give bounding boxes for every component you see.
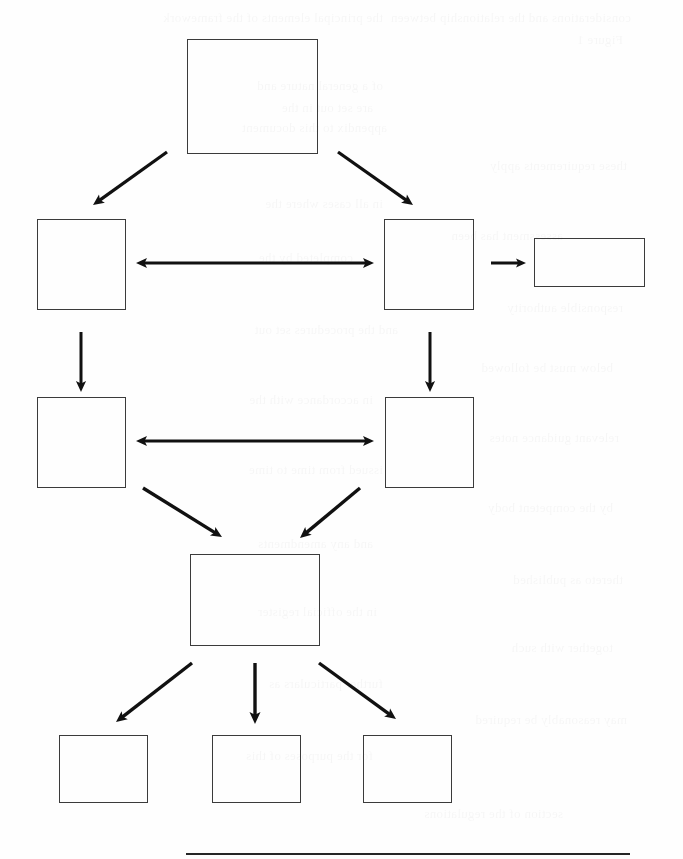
bleed-through-line: completed by the bbox=[259, 250, 353, 266]
bottom-horizontal-rule bbox=[186, 853, 630, 855]
arrow-lower-bidirectional bbox=[136, 436, 374, 446]
arrow-root-to-left-upper bbox=[93, 152, 167, 205]
bleed-through-line: responsible authority bbox=[507, 300, 623, 316]
arrow-merge-to-leaf-3 bbox=[319, 663, 396, 719]
arrow-merge-to-leaf-2 bbox=[249, 663, 260, 724]
bleed-through-line: by the competent body bbox=[488, 500, 613, 516]
side-output-node[interactable] bbox=[534, 238, 645, 287]
left-upper-node[interactable] bbox=[37, 219, 126, 310]
bleed-through-line: and any amendments bbox=[258, 536, 373, 552]
bleed-through-line: considerations and the relationship betw… bbox=[391, 10, 631, 26]
bleed-through-line: thereto as published bbox=[513, 572, 623, 588]
bleed-through-line: relevant guidance notes bbox=[489, 430, 619, 446]
bleed-through-line: and the procedures set out bbox=[254, 322, 398, 338]
root-node[interactable] bbox=[187, 39, 318, 154]
bleed-through-line: these requirements apply bbox=[490, 158, 627, 174]
bleed-through-line: the principal elements of the framework bbox=[163, 10, 383, 26]
right-lower-node[interactable] bbox=[385, 397, 474, 488]
leaf-node-2[interactable] bbox=[212, 735, 301, 803]
arrow-right-lower-to-merge bbox=[300, 488, 360, 538]
arrow-merge-to-leaf-1 bbox=[116, 663, 192, 722]
arrow-left-lower-to-merge bbox=[143, 488, 222, 537]
leaf-node-3[interactable] bbox=[363, 735, 452, 803]
bleed-through-line: issued from time to time bbox=[249, 462, 383, 478]
arrow-left-upper-to-left-lower bbox=[76, 332, 86, 392]
arrow-root-to-right-upper bbox=[338, 152, 413, 205]
scanned-page: considerations and the relationship betw… bbox=[0, 0, 683, 859]
arrow-right-upper-to-side bbox=[491, 258, 526, 267]
bleed-through-line: section of the regulations bbox=[424, 806, 563, 822]
bleed-through-line: below must be followed bbox=[481, 360, 613, 376]
right-upper-node[interactable] bbox=[384, 219, 474, 310]
left-lower-node[interactable] bbox=[37, 397, 126, 488]
arrow-right-upper-to-right-lower bbox=[425, 332, 435, 392]
bleed-through-line: in all cases where the bbox=[265, 196, 383, 212]
bleed-through-line: further particulars as bbox=[269, 676, 383, 692]
arrow-upper-bidirectional bbox=[136, 258, 374, 268]
leaf-node-1[interactable] bbox=[59, 735, 148, 803]
bleed-through-line: Figure 1 bbox=[577, 32, 623, 48]
merge-node[interactable] bbox=[190, 554, 320, 646]
bleed-through-line: may reasonably be required bbox=[475, 712, 627, 728]
bleed-through-line: in accordance with the bbox=[249, 392, 373, 408]
bleed-through-line: together with such bbox=[512, 640, 613, 656]
